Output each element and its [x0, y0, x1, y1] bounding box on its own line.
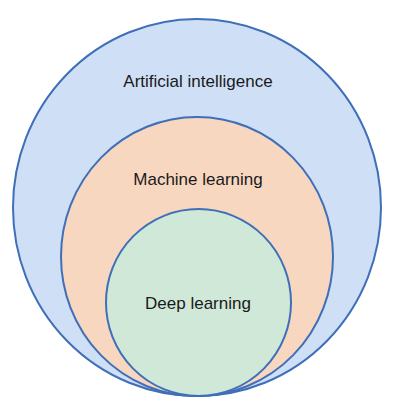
label-machine-learning: Machine learning [133, 170, 262, 189]
label-deep-learning: Deep learning [145, 294, 251, 313]
label-artificial-intelligence: Artificial intelligence [123, 72, 272, 91]
nested-circles-diagram: Artificial intelligence Machine learning… [0, 0, 402, 418]
